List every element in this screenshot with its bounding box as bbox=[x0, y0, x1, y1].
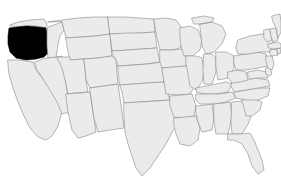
state-texas[interactable] bbox=[124, 100, 178, 176]
state-louisiana[interactable] bbox=[174, 116, 200, 146]
us-map-svg bbox=[0, 0, 281, 192]
state-oregon[interactable] bbox=[8, 26, 49, 60]
state-south-dakota[interactable] bbox=[110, 32, 157, 51]
state-arkansas[interactable] bbox=[170, 94, 196, 118]
state-kentucky[interactable] bbox=[196, 82, 232, 94]
state-indiana[interactable] bbox=[203, 54, 216, 84]
state-maryland[interactable] bbox=[248, 70, 268, 79]
state-idaho[interactable] bbox=[47, 22, 64, 58]
state-west-virginia[interactable] bbox=[228, 70, 248, 83]
state-wisconsin[interactable] bbox=[180, 26, 202, 56]
state-florida[interactable] bbox=[228, 133, 264, 174]
state-north-dakota[interactable] bbox=[108, 17, 155, 34]
state-alabama[interactable] bbox=[214, 102, 232, 134]
state-oklahoma[interactable] bbox=[120, 82, 170, 103]
state-wyoming[interactable] bbox=[66, 34, 112, 60]
state-pennsylvania[interactable] bbox=[234, 52, 268, 70]
state-rhode-island[interactable] bbox=[277, 48, 281, 54]
state-kansas[interactable] bbox=[118, 62, 164, 85]
state-colorado[interactable] bbox=[84, 56, 118, 88]
state-minnesota[interactable] bbox=[154, 18, 184, 50]
us-map-container bbox=[0, 0, 281, 192]
state-connecticut[interactable] bbox=[270, 49, 278, 56]
